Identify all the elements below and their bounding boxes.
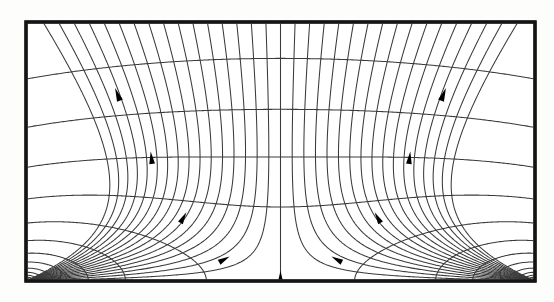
flow-net-figure: Flow net diagram [0,0,554,302]
flow-net-canvas [0,0,554,302]
